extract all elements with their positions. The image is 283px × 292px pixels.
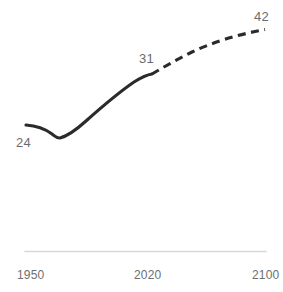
chart-plot-area: [0, 0, 283, 292]
data-label-end: 42: [254, 10, 269, 23]
data-label-mid: 31: [139, 52, 154, 65]
x-tick-label-third: 2100: [252, 269, 280, 281]
line-chart: 24 31 42 1950 2020 2100: [0, 0, 283, 292]
x-tick-label-first: 1950: [17, 269, 45, 281]
x-tick-label-second: 2020: [134, 269, 162, 281]
series-line-historical: [26, 74, 152, 138]
series-line-projection: [152, 30, 265, 75]
data-label-start: 24: [16, 136, 31, 149]
